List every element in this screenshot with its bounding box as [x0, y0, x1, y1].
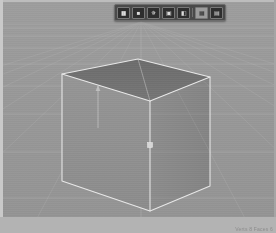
- tool-select-icon[interactable]: ▮▮: [117, 7, 130, 19]
- toolbar-separator: [192, 8, 193, 17]
- 3d-viewport[interactable]: [3, 2, 274, 217]
- tool-transform-icon[interactable]: ◧: [177, 7, 190, 19]
- tool-move-icon[interactable]: ■: [132, 7, 145, 19]
- shading-wire-icon[interactable]: ▤: [210, 7, 223, 19]
- app-window: ▮▮■✵▣◧▦▤ Verts 8 Faces 6: [0, 0, 276, 233]
- floating-viewport-toolbar[interactable]: ▮▮■✵▣◧▦▤: [114, 4, 226, 21]
- status-text: Verts 8 Faces 6: [235, 226, 273, 232]
- viewport-canvas: [3, 2, 274, 217]
- gizmo-scale-handle: [148, 143, 153, 148]
- shading-solid-icon[interactable]: ▦: [195, 7, 208, 19]
- tool-rotate-icon[interactable]: ✵: [147, 7, 160, 19]
- tool-scale-icon[interactable]: ▣: [162, 7, 175, 19]
- window-edge-right: [274, 0, 276, 233]
